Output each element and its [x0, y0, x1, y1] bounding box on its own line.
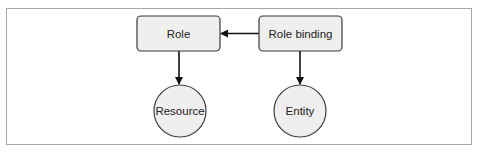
node-resource-label: Resource — [155, 105, 204, 117]
node-entity: Entity — [274, 85, 326, 137]
node-role-binding: Role binding — [259, 16, 342, 51]
node-resource: Resource — [154, 85, 206, 137]
node-role-binding-label: Role binding — [269, 28, 333, 40]
node-role-label: Role — [167, 28, 191, 40]
diagram-canvas: Role Role binding Resource Entity — [0, 0, 478, 153]
node-entity-label: Entity — [286, 105, 315, 117]
node-role: Role — [137, 16, 220, 51]
